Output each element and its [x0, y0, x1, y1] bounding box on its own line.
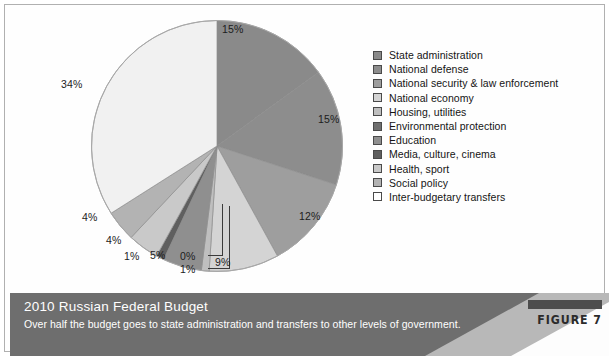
legend-item-national-defense[interactable]: National defense: [373, 62, 608, 76]
pie-svg: [88, 17, 346, 275]
slice-label-state-administration: 15%: [222, 23, 243, 35]
chart-plot-area: 15% 15% 12% 9% 1% 0% 5% 1% 4% 4% 34% Sta…: [10, 10, 609, 292]
legend-item-state-administration[interactable]: State administration: [373, 48, 608, 62]
legend-swatch-icon: [373, 192, 382, 201]
figure-caption: Over half the budget goes to state admin…: [24, 318, 464, 332]
legend-swatch-icon: [373, 107, 382, 116]
slice-label-health-sport: 4%: [106, 234, 121, 246]
slice-label-national-economy: 9%: [215, 256, 230, 268]
figure-container: 15% 15% 12% 9% 1% 0% 5% 1% 4% 4% 34% Sta…: [0, 0, 611, 359]
legend-item-social-policy[interactable]: Social policy: [373, 176, 608, 190]
legend-label: Media, culture, cinema: [389, 148, 496, 160]
figure-tag-bar-icon: [528, 300, 602, 309]
pie-chart: [88, 17, 346, 275]
legend-swatch-icon: [373, 79, 382, 88]
legend-swatch-icon: [373, 164, 382, 173]
slice-label-environmental-protection: 0%: [180, 250, 195, 262]
figure-frame: 15% 15% 12% 9% 1% 0% 5% 1% 4% 4% 34% Sta…: [4, 4, 605, 352]
slice-label-social-policy: 4%: [82, 211, 97, 223]
slice-label-inter-budgetary-transfers: 34%: [61, 78, 82, 90]
legend-swatch-icon: [373, 65, 382, 74]
legend-label: Inter-budgetary transfers: [389, 191, 505, 203]
legend-item-environmental-protection[interactable]: Environmental protection: [373, 119, 608, 133]
legend-item-national-security[interactable]: National security & law enforcement: [373, 76, 608, 90]
legend-label: National economy: [389, 92, 474, 104]
legend-label: Education: [389, 134, 436, 146]
caption-text-block: 2010 Russian Federal Budget Over half th…: [24, 299, 464, 332]
legend-item-national-economy[interactable]: National economy: [373, 91, 608, 105]
legend-swatch-icon: [373, 93, 382, 102]
legend-label: Environmental protection: [389, 120, 506, 132]
slice-label-national-defense: 15%: [318, 113, 339, 125]
legend-swatch-icon: [373, 136, 382, 145]
slice-label-education: 5%: [150, 249, 165, 261]
legend-item-media-culture-cinema[interactable]: Media, culture, cinema: [373, 147, 608, 161]
legend-label: State administration: [389, 49, 483, 61]
figure-title: 2010 Russian Federal Budget: [24, 299, 464, 314]
legend-swatch-icon: [373, 122, 382, 131]
caption-banner: 2010 Russian Federal Budget Over half th…: [10, 293, 609, 356]
slice-label-housing-utilities: 1%: [124, 250, 139, 262]
legend-item-housing-utilities[interactable]: Housing, utilities: [373, 105, 608, 119]
slice-label-national-security: 12%: [299, 210, 320, 222]
legend-label: National defense: [389, 63, 469, 75]
legend-item-health-sport[interactable]: Health, sport: [373, 162, 608, 176]
figure-tag-label: FIGURE 7: [537, 312, 602, 327]
legend-label: National security & law enforcement: [389, 77, 558, 89]
legend-swatch-icon: [373, 178, 382, 187]
chart-legend: State administration National defense Na…: [373, 48, 608, 204]
legend-swatch-icon: [373, 51, 382, 60]
legend-item-education[interactable]: Education: [373, 133, 608, 147]
leader-line-zero: [222, 204, 223, 256]
legend-item-inter-budgetary-transfers[interactable]: Inter-budgetary transfers: [373, 190, 608, 204]
figure-tag: FIGURE 7: [528, 300, 602, 327]
legend-swatch-icon: [373, 150, 382, 159]
legend-label: Social policy: [389, 177, 448, 189]
slice-label-media-culture-cinema: 1%: [180, 263, 195, 275]
legend-label: Health, sport: [389, 163, 449, 175]
legend-label: Housing, utilities: [389, 106, 466, 118]
leader-line-one-horizontal: [208, 268, 230, 269]
